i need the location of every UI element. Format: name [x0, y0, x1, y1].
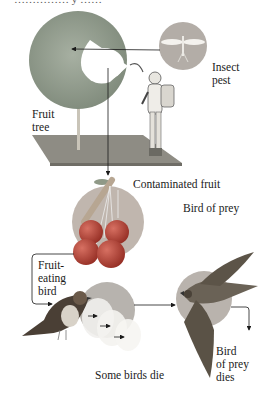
arrow-prey-to-dies	[231, 307, 249, 330]
label-line: eating	[38, 272, 66, 285]
insect-pest-icon	[159, 22, 207, 70]
label-bird-of-prey: Bird of prey	[183, 202, 239, 215]
label-line: bird	[38, 285, 66, 298]
dying-birds-icon	[79, 282, 141, 351]
label-insect-pest: Insect pest	[212, 61, 239, 87]
label-line: dies	[216, 371, 249, 384]
label-line: of prey	[216, 358, 249, 371]
label-line: Insect	[212, 61, 239, 74]
label-bird-of-prey-dies: Bird of prey dies	[216, 345, 249, 384]
label-contaminated-fruit: Contaminated fruit	[133, 178, 220, 191]
label-line: tree	[32, 121, 54, 134]
label-line: Fruit	[32, 108, 54, 121]
label-fruit-eating-bird: Fruit- eating bird	[38, 259, 66, 298]
fruit-tree-icon	[29, 11, 128, 109]
label-line: Bird	[216, 345, 249, 358]
contaminated-fruit-icon	[72, 179, 144, 268]
label-line: Fruit-	[38, 259, 66, 272]
label-some-birds-die: Some birds die	[95, 369, 164, 382]
label-line: pest	[212, 74, 239, 87]
label-fruit-tree: Fruit tree	[32, 108, 54, 134]
